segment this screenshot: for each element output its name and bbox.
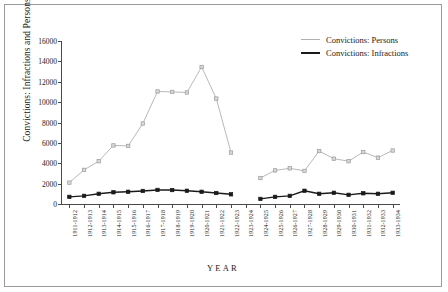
data-point	[347, 193, 350, 196]
x-tick-mark	[319, 204, 320, 208]
data-point	[185, 189, 188, 192]
x-tick-label: 1928-1929	[322, 210, 328, 237]
x-tick-mark	[260, 204, 261, 208]
plot-area	[62, 41, 400, 204]
data-point	[97, 160, 100, 163]
data-point	[215, 191, 218, 194]
x-tick-label: 1915-1916	[131, 210, 137, 237]
x-tick-mark	[128, 204, 129, 208]
data-point	[68, 195, 71, 198]
legend-swatch-persons	[301, 39, 320, 41]
x-tick-label: 1925-1926	[278, 210, 284, 237]
data-point	[156, 90, 159, 93]
legend-item-persons: Convictions: Persons	[301, 33, 408, 46]
x-tick-label: 1913-1914	[101, 210, 107, 237]
series-line	[69, 67, 231, 183]
data-point	[362, 192, 365, 195]
data-point	[229, 151, 232, 154]
data-point	[68, 181, 71, 184]
data-point	[82, 194, 85, 197]
y-tick-mark	[58, 184, 61, 185]
data-point	[347, 160, 350, 163]
data-point	[317, 149, 320, 152]
y-tick-mark	[58, 123, 61, 124]
x-tick-label: 1922-1923	[234, 210, 240, 237]
y-tick-label: 0	[53, 200, 57, 209]
chart-frame: Convictions: Infractions and Persons 020…	[4, 4, 442, 287]
y-tick-label: 10000	[38, 98, 57, 107]
data-point	[126, 190, 129, 193]
data-point	[200, 65, 203, 68]
data-point	[185, 91, 188, 94]
y-tick-mark	[58, 163, 61, 164]
x-tick-mark	[290, 204, 291, 208]
data-point	[171, 90, 174, 93]
x-tick-label: 1930-1931	[351, 210, 357, 237]
x-tick-label: 1924-1925	[263, 210, 269, 237]
data-point	[288, 167, 291, 170]
y-tick-label: 16000	[38, 37, 57, 46]
x-tick-mark	[216, 204, 217, 208]
data-point	[259, 197, 262, 200]
x-tick-mark	[378, 204, 379, 208]
x-tick-label: 1929-1930	[336, 210, 342, 237]
data-point	[317, 192, 320, 195]
x-tick-mark	[246, 204, 247, 208]
data-point	[171, 188, 174, 191]
data-point	[288, 194, 291, 197]
x-tick-label: 1926-1927	[292, 210, 298, 237]
y-tick-mark	[58, 143, 61, 144]
x-tick-label: 1920-1921	[204, 210, 210, 237]
data-point	[156, 188, 159, 191]
x-tick-mark	[158, 204, 159, 208]
y-tick-label: 12000	[38, 77, 57, 86]
y-tick-mark	[58, 41, 61, 42]
x-tick-mark	[275, 204, 276, 208]
x-tick-label: 1927-1928	[307, 210, 313, 237]
data-point	[141, 122, 144, 125]
chart-legend: Convictions: Persons Convictions: Infrac…	[301, 33, 408, 59]
x-tick-mark	[172, 204, 173, 208]
x-tick-mark	[393, 204, 394, 208]
x-tick-mark	[113, 204, 114, 208]
x-tick-label: 1916-1917	[145, 210, 151, 237]
data-point	[332, 157, 335, 160]
data-point	[332, 191, 335, 194]
data-point	[376, 192, 379, 195]
x-tick-mark	[99, 204, 100, 208]
data-point	[273, 169, 276, 172]
legend-swatch-infractions	[301, 52, 320, 54]
y-tick-label: 14000	[38, 57, 57, 66]
data-point	[215, 97, 218, 100]
series-line	[69, 190, 231, 197]
data-point	[273, 195, 276, 198]
x-tick-label: 1911-1912	[72, 210, 78, 237]
x-tick-label: 1917-1918	[160, 210, 166, 237]
x-tick-mark	[334, 204, 335, 208]
data-point	[112, 144, 115, 147]
y-axis-title: Convictions: Infractions and Persons	[22, 0, 32, 160]
x-tick-mark	[187, 204, 188, 208]
data-point	[391, 191, 394, 194]
x-tick-label: 1932-1933	[380, 210, 386, 237]
x-tick-label: 1914-1915	[116, 210, 122, 237]
y-tick-label: 2000	[42, 179, 57, 188]
legend-label-persons: Convictions: Persons	[326, 35, 398, 45]
x-tick-label: 1933-1934	[395, 210, 401, 237]
data-point	[303, 189, 306, 192]
x-tick-mark	[84, 204, 85, 208]
y-tick-mark	[58, 102, 61, 103]
data-point	[391, 149, 394, 152]
data-point	[303, 169, 306, 172]
legend-item-infractions: Convictions: Infractions	[301, 46, 408, 59]
x-tick-mark	[202, 204, 203, 208]
data-point	[259, 176, 262, 179]
y-tick-label: 6000	[42, 138, 57, 147]
x-tick-label: 1923-1924	[248, 210, 254, 237]
x-tick-label: 1912-1913	[87, 210, 93, 237]
x-tick-mark	[69, 204, 70, 208]
x-tick-mark	[231, 204, 232, 208]
x-tick-mark	[349, 204, 350, 208]
data-point	[376, 156, 379, 159]
data-point	[229, 193, 232, 196]
